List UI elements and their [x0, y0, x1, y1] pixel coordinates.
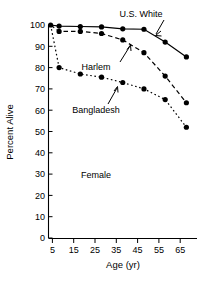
- x-axis-title: Age (yr): [106, 259, 140, 270]
- x-tick-label: 25: [90, 245, 100, 255]
- x-tick-label: 15: [69, 245, 79, 255]
- data-point: [57, 23, 62, 28]
- data-point: [78, 24, 83, 29]
- data-point: [120, 37, 125, 42]
- y-axis-title: Percent Alive: [4, 104, 15, 159]
- x-tick-label: 35: [111, 245, 121, 255]
- data-point: [184, 54, 189, 59]
- annotation-female: Female: [81, 170, 111, 180]
- data-point: [78, 71, 83, 76]
- data-point: [57, 29, 62, 34]
- data-point: [99, 75, 104, 80]
- series-line-harlem: [51, 25, 187, 103]
- y-tick-labels: 100 90 80 70 60 50 40 30 20 10 0: [30, 20, 45, 243]
- data-point: [163, 97, 168, 102]
- y-tick-label: 50: [35, 127, 45, 137]
- data-point: [163, 39, 168, 44]
- data-point: [184, 125, 189, 130]
- x-tick-label: 65: [175, 245, 185, 255]
- data-point: [99, 24, 104, 29]
- y-tick-marks: [49, 25, 53, 238]
- data-point: [141, 86, 146, 91]
- series-label-bangladesh: Bangladesh: [72, 105, 120, 115]
- y-tick-label: 30: [35, 169, 45, 179]
- chart-container: 100 90 80 70 60 50 40 30 20 10 0 5 15 25: [0, 0, 205, 282]
- y-tick-label: 0: [40, 233, 45, 243]
- series-label-harlem: Harlem: [81, 62, 110, 72]
- data-point: [141, 27, 146, 32]
- data-point: [120, 26, 125, 31]
- series-label-us-white: U.S. White: [119, 9, 162, 19]
- y-tick-label: 60: [35, 106, 45, 116]
- y-tick-label: 90: [35, 42, 45, 52]
- data-point: [99, 31, 104, 36]
- survival-curve-chart: 100 90 80 70 60 50 40 30 20 10 0 5 15 25: [0, 0, 205, 282]
- x-tick-labels: 5 15 25 35 45 55 65: [50, 245, 185, 255]
- y-tick-label: 100: [30, 20, 45, 30]
- y-tick-label: 10: [35, 212, 45, 222]
- annotation-leaders: [108, 20, 164, 104]
- x-tick-label: 45: [133, 245, 143, 255]
- y-tick-label: 80: [35, 63, 45, 73]
- y-tick-label: 20: [35, 191, 45, 201]
- data-point: [120, 80, 125, 85]
- data-point: [163, 74, 168, 79]
- data-point: [78, 29, 83, 34]
- data-point: [184, 100, 189, 105]
- x-tick-marks: [52, 239, 180, 244]
- x-tick-label: 55: [154, 245, 164, 255]
- y-tick-label: 40: [35, 148, 45, 158]
- bangladesh-leader-line: [108, 88, 117, 104]
- harlem-leader-line: [120, 46, 130, 62]
- x-tick-label: 5: [50, 245, 55, 255]
- data-point: [141, 50, 146, 55]
- y-tick-label: 70: [35, 84, 45, 94]
- data-point: [57, 65, 62, 70]
